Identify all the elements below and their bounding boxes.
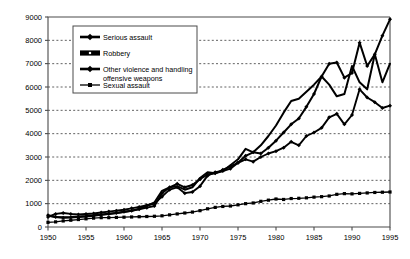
y-tick-label: 4000 [25,129,42,138]
data-point [54,220,57,223]
x-tick-label: 1990 [344,233,361,242]
x-tick-label: 1975 [230,233,247,242]
data-point [259,200,262,203]
data-point [176,212,179,215]
data-point [320,195,323,198]
data-point [84,217,87,220]
line-chart: 0100020003000400050006000700080009000 19… [0,0,410,259]
x-tick-label: 1960 [116,233,133,242]
x-tick-label: 1995 [382,233,399,242]
data-point [297,197,300,200]
x-tick-label: 1985 [306,233,323,242]
y-axis-tick-labels: 0100020003000400050006000700080009000 [25,13,42,232]
data-point [61,211,65,215]
data-point [77,218,80,221]
data-point [198,209,201,212]
y-tick-label: 7000 [25,59,42,68]
data-point [191,210,194,213]
legend-marker-center-icon [89,52,91,54]
data-point [160,214,163,217]
data-point [388,190,391,193]
data-point [62,219,65,222]
y-tick-label: 2000 [25,176,42,185]
y-tick-label: 5000 [25,106,42,115]
chart-legend: Serious assaultRobberyOther violence and… [73,26,197,93]
series-line [48,192,390,222]
data-point [282,198,285,201]
data-point [69,219,72,222]
data-point [350,192,353,195]
data-point [366,191,369,194]
data-point [267,199,270,202]
series-line [48,89,390,217]
y-tick-label: 8000 [25,36,42,45]
x-axis-tick-labels: 1950195519601965197019751980198519901995 [40,233,399,242]
x-tick-label: 1970 [192,233,209,242]
data-point [335,193,338,196]
data-point [236,203,239,206]
data-point [183,211,186,214]
legend-label: Robbery [103,49,131,58]
data-point [358,192,361,195]
data-point [130,215,133,218]
chart-container: 0100020003000400050006000700080009000 19… [0,0,410,259]
data-point [274,197,277,200]
legend-label: Serious assault [103,33,152,42]
data-point [46,221,49,224]
data-point [100,216,103,219]
data-point [305,196,308,199]
legend-marker-square-icon [88,83,92,87]
data-point [290,197,293,200]
y-tick-label: 1000 [25,199,42,208]
y-tick-label: 9000 [25,13,42,22]
data-point [381,191,384,194]
x-tick-label: 1980 [268,233,285,242]
legend-label: Sexual assault [103,81,150,90]
data-point [328,194,331,197]
data-point [252,201,255,204]
data-point [312,196,315,199]
data-point [92,217,95,220]
data-point [122,216,125,219]
x-tick-label: 1950 [40,233,57,242]
data-point [343,192,346,195]
x-tick-label: 1965 [154,233,171,242]
data-point [214,206,217,209]
data-point [145,215,148,218]
data-point [138,215,141,218]
legend-label: Other violence and handling [103,65,193,74]
data-point [107,216,110,219]
data-point [229,204,232,207]
data-point [373,191,376,194]
series-4 [46,190,391,224]
y-tick-label: 6000 [25,83,42,92]
data-point [115,216,118,219]
data-point [244,202,247,205]
y-tick-label: 0 [38,223,42,232]
data-point [69,212,73,216]
series-3 [46,87,392,219]
data-point [206,207,209,210]
data-point [168,213,171,216]
y-tick-label: 3000 [25,153,42,162]
data-point [221,205,224,208]
x-tick-label: 1955 [78,233,95,242]
data-point [153,215,156,218]
